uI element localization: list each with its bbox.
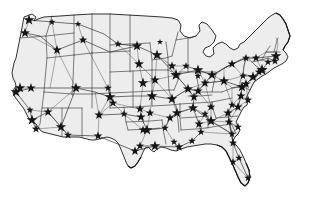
- map-canvas: SeattleSpokanePortlandBoiseBillingsGreat…: [0, 0, 315, 217]
- us-network-map-figure: SeattleSpokanePortlandBoiseBillingsGreat…: [0, 0, 315, 217]
